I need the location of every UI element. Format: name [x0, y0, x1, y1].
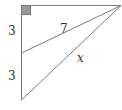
label-lower-three: 3 [8, 69, 16, 83]
label-upper-three: 3 [8, 24, 16, 38]
label-x: x [77, 51, 84, 65]
segment-seven [22, 6, 122, 54]
triangle-diagram: 3 3 7 x [0, 0, 122, 110]
right-angle-marker [22, 6, 31, 15]
label-seven: 7 [60, 22, 68, 36]
segment-x [22, 6, 122, 101]
